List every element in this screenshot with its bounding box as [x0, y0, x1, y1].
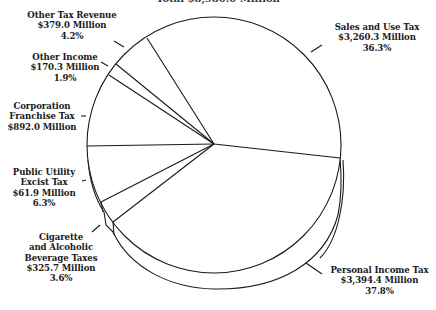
label-other-income: Other Income $170.3 Million 1.9% [30, 52, 100, 83]
label-other-tax-revenue: Other Tax Revenue $379.0 Million 4.2% [24, 10, 120, 41]
leader-cig [92, 225, 100, 232]
leader-other-income [101, 62, 108, 66]
label-corporation-franchise: Corporation Franchise Tax $892.0 Million [2, 101, 82, 132]
label-public-utility: Public Utility Excist Tax $61.9 Million … [6, 167, 82, 208]
leader-utility [82, 180, 86, 181]
leader-personal [306, 263, 322, 274]
label-sales-and-use-tax: Sales and Use Tax $3,260.3 Million 36.3% [322, 22, 432, 53]
label-personal-income-tax: Personal Income Tax $3,394.4 Million 37.… [323, 265, 436, 296]
leader-sales [311, 45, 322, 52]
leader-other-tax [114, 41, 124, 47]
label-cigarette-alcoholic: Cigarette and Alcoholic Beverage Taxes $… [18, 232, 104, 283]
